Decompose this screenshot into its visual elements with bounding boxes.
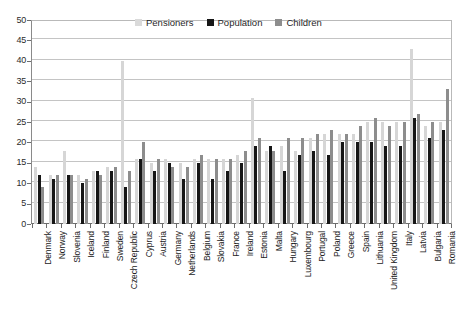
bar-group: [220, 21, 234, 224]
bar-group: [335, 21, 349, 224]
bar-children-romania: [446, 89, 449, 224]
bar-children-estonia: [258, 138, 261, 224]
x-axis-label-estonia: Estonia: [259, 231, 269, 259]
bar-group: [75, 21, 89, 224]
bar-children-hungary: [287, 138, 290, 224]
bar-population-italy: [399, 146, 402, 224]
bar-pensioners-belgium: [193, 159, 196, 224]
bar-pensioners-bulgaria: [424, 126, 427, 224]
bar-group: [176, 21, 190, 224]
bar-population-united-kingdom: [384, 146, 387, 224]
x-axis-tick-mark: [321, 224, 322, 228]
x-axis-tick-mark: [364, 224, 365, 228]
x-axis-label-latvia: Latvia: [418, 231, 428, 253]
y-axis-tick-mark: [27, 142, 31, 143]
x-axis-label-malta: Malta: [274, 231, 284, 251]
x-axis-tick-mark: [422, 224, 423, 228]
bar-children-austria: [157, 159, 160, 224]
x-axis-label-norway: Norway: [57, 231, 67, 259]
bar-population-slovenia: [67, 175, 70, 224]
bar-group: [119, 21, 133, 224]
bar-group: [364, 21, 378, 224]
bar-population-lithuania: [370, 142, 373, 224]
bar-group: [61, 21, 75, 224]
bar-group: [234, 21, 248, 224]
legend-swatch-pensioners-icon: [135, 19, 142, 26]
x-axis-tick-mark: [162, 224, 163, 228]
bar-children-spain: [359, 126, 362, 224]
bar-group: [104, 21, 118, 224]
x-axis-label-czech-republic: Czech Republic: [129, 231, 139, 289]
bar-group: [90, 21, 104, 224]
bar-children-czech-republic: [128, 171, 131, 224]
bar-chart: 05101520253035404550 DenmarkNorwaySloven…: [0, 0, 458, 315]
bar-pensioners-malta: [265, 151, 268, 224]
bar-group: [307, 21, 321, 224]
x-axis-tick-mark: [191, 224, 192, 228]
x-axis-label-united-kingdom: United Kingdom: [389, 231, 399, 290]
bar-pensioners-romania: [439, 122, 442, 224]
bar-children-ireland: [244, 151, 247, 224]
y-axis-tick-label: 15: [2, 157, 26, 167]
y-axis-tick-mark: [27, 183, 31, 184]
bar-population-spain: [356, 142, 359, 224]
x-axis-tick-mark: [393, 224, 394, 228]
x-axis-label-poland: Poland: [332, 231, 342, 257]
y-axis-tick-mark: [27, 61, 31, 62]
bar-pensioners-norway: [49, 175, 52, 224]
bar-population-poland: [327, 155, 330, 224]
bar-population-luxembourg: [298, 155, 301, 224]
bar-pensioners-iceland: [77, 175, 80, 224]
bar-group: [437, 21, 451, 224]
legend-swatch-children-icon: [275, 19, 282, 26]
x-axis-label-greece: Greece: [346, 231, 356, 258]
bar-group: [249, 21, 263, 224]
bar-pensioners-hungary: [280, 146, 283, 224]
y-axis-tick-label: 10: [2, 178, 26, 188]
x-axis-tick-mark: [133, 224, 134, 228]
bar-population-cyprus: [139, 159, 142, 224]
bar-group: [379, 21, 393, 224]
y-axis-tick-label: 30: [2, 96, 26, 106]
bars-layer: [32, 21, 451, 224]
bar-pensioners-ireland: [236, 155, 239, 224]
bar-pensioners-cyprus: [135, 159, 138, 224]
bar-population-hungary: [283, 171, 286, 224]
x-axis-tick-mark: [350, 224, 351, 228]
bar-children-latvia: [417, 114, 420, 224]
x-axis-tick-mark: [46, 224, 47, 228]
bar-children-slovenia: [70, 175, 73, 224]
bar-children-finland: [99, 175, 102, 224]
x-axis-label-belgium: Belgium: [202, 231, 212, 261]
x-axis-tick-mark: [32, 224, 33, 228]
bar-pensioners-poland: [323, 134, 326, 224]
bar-pensioners-slovenia: [63, 151, 66, 224]
bar-children-portugal: [316, 134, 319, 224]
x-axis-label-romania: Romania: [447, 231, 457, 264]
bar-group: [32, 21, 46, 224]
x-axis-label-portugal: Portugal: [317, 231, 327, 262]
x-axis-tick-mark: [104, 224, 105, 228]
bar-pensioners-sweden: [106, 167, 109, 224]
bar-group: [292, 21, 306, 224]
x-axis-label-bulgaria: Bulgaria: [433, 231, 443, 261]
bar-pensioners-finland: [92, 171, 95, 224]
bar-population-latvia: [413, 118, 416, 224]
bar-pensioners-portugal: [309, 138, 312, 224]
x-axis-label-hungary: Hungary: [288, 231, 298, 262]
x-axis-label-luxembourg: Luxembourg: [303, 231, 313, 277]
x-axis-tick-mark: [335, 224, 336, 228]
bar-group: [162, 21, 176, 224]
bar-population-ireland: [240, 163, 243, 224]
x-axis-label-finland: Finland: [101, 231, 111, 258]
bar-children-belgium: [200, 155, 203, 224]
x-axis-label-lithuania: Lithuania: [375, 231, 385, 265]
bar-children-norway: [56, 175, 59, 224]
bar-group: [46, 21, 60, 224]
x-axis-label-slovakia: Slovakia: [216, 231, 226, 262]
bar-children-italy: [403, 122, 406, 224]
bar-group: [205, 21, 219, 224]
x-axis-tick-mark: [379, 224, 380, 228]
x-axis-label-italy: Italy: [404, 231, 414, 246]
x-axis-tick-mark: [148, 224, 149, 228]
